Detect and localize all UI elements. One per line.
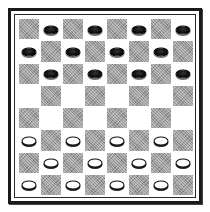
light-square-r2c7[interactable] xyxy=(172,63,194,85)
light-square-r1c4[interactable] xyxy=(106,40,128,62)
dark-square-r5c7[interactable] xyxy=(172,129,194,151)
light-square-r2c3[interactable] xyxy=(84,63,106,85)
white-checker-piece[interactable] xyxy=(44,159,59,168)
black-checker-piece[interactable] xyxy=(176,25,191,34)
dark-square-r2c2[interactable] xyxy=(62,63,84,85)
dark-square-r5c1[interactable] xyxy=(40,129,62,151)
light-square-r0c7[interactable] xyxy=(172,18,194,40)
light-square-r2c5[interactable] xyxy=(128,63,150,85)
dark-square-r1c1[interactable] xyxy=(40,40,62,62)
light-square-r6c1[interactable] xyxy=(40,152,62,174)
dark-square-r2c6[interactable] xyxy=(150,63,172,85)
white-checker-piece[interactable] xyxy=(66,136,81,145)
dark-square-r7c5[interactable] xyxy=(128,174,150,196)
light-square-r3c4[interactable] xyxy=(106,85,128,107)
dark-square-r6c2[interactable] xyxy=(62,152,84,174)
dark-square-r3c7[interactable] xyxy=(172,85,194,107)
board-frame-inner xyxy=(14,14,196,198)
dark-square-r7c3[interactable] xyxy=(84,174,106,196)
black-checker-piece[interactable] xyxy=(132,70,147,79)
board-frame-outer xyxy=(8,8,202,204)
light-square-r7c6[interactable] xyxy=(150,174,172,196)
light-square-r5c4[interactable] xyxy=(106,129,128,151)
dark-square-r4c0[interactable] xyxy=(18,107,40,129)
light-square-r0c5[interactable] xyxy=(128,18,150,40)
dark-square-r1c3[interactable] xyxy=(84,40,106,62)
white-checker-piece[interactable] xyxy=(154,136,169,145)
white-checker-piece[interactable] xyxy=(110,181,125,190)
light-square-r0c1[interactable] xyxy=(40,18,62,40)
light-square-r3c0[interactable] xyxy=(18,85,40,107)
checkers-board[interactable] xyxy=(18,18,194,196)
dark-square-r0c0[interactable] xyxy=(18,18,40,40)
light-square-r1c2[interactable] xyxy=(62,40,84,62)
white-checker-piece[interactable] xyxy=(132,159,147,168)
light-square-r6c3[interactable] xyxy=(84,152,106,174)
white-checker-piece[interactable] xyxy=(22,181,37,190)
black-checker-piece[interactable] xyxy=(22,47,37,56)
white-checker-piece[interactable] xyxy=(154,181,169,190)
dark-square-r5c3[interactable] xyxy=(84,129,106,151)
white-checker-piece[interactable] xyxy=(22,136,37,145)
white-checker-piece[interactable] xyxy=(66,181,81,190)
light-square-r7c2[interactable] xyxy=(62,174,84,196)
dark-square-r1c5[interactable] xyxy=(128,40,150,62)
dark-square-r5c5[interactable] xyxy=(128,129,150,151)
dark-square-r3c1[interactable] xyxy=(40,85,62,107)
dark-square-r4c2[interactable] xyxy=(62,107,84,129)
white-checker-piece[interactable] xyxy=(88,159,103,168)
black-checker-piece[interactable] xyxy=(110,47,125,56)
light-square-r3c2[interactable] xyxy=(62,85,84,107)
light-square-r5c0[interactable] xyxy=(18,129,40,151)
light-square-r4c5[interactable] xyxy=(128,107,150,129)
dark-square-r3c5[interactable] xyxy=(128,85,150,107)
light-square-r4c3[interactable] xyxy=(84,107,106,129)
dark-square-r3c3[interactable] xyxy=(84,85,106,107)
black-checker-piece[interactable] xyxy=(176,70,191,79)
black-checker-piece[interactable] xyxy=(88,70,103,79)
light-square-r4c7[interactable] xyxy=(172,107,194,129)
dark-square-r4c6[interactable] xyxy=(150,107,172,129)
light-square-r6c7[interactable] xyxy=(172,152,194,174)
white-checker-piece[interactable] xyxy=(110,136,125,145)
light-square-r1c6[interactable] xyxy=(150,40,172,62)
black-checker-piece[interactable] xyxy=(66,47,81,56)
dark-square-r6c0[interactable] xyxy=(18,152,40,174)
black-checker-piece[interactable] xyxy=(44,25,59,34)
dark-square-r0c2[interactable] xyxy=(62,18,84,40)
light-square-r7c4[interactable] xyxy=(106,174,128,196)
dark-square-r4c4[interactable] xyxy=(106,107,128,129)
black-checker-piece[interactable] xyxy=(88,25,103,34)
dark-square-r2c4[interactable] xyxy=(106,63,128,85)
dark-square-r7c7[interactable] xyxy=(172,174,194,196)
white-checker-piece[interactable] xyxy=(176,159,191,168)
light-square-r4c1[interactable] xyxy=(40,107,62,129)
dark-square-r7c1[interactable] xyxy=(40,174,62,196)
light-square-r0c3[interactable] xyxy=(84,18,106,40)
dark-square-r1c7[interactable] xyxy=(172,40,194,62)
light-square-r1c0[interactable] xyxy=(18,40,40,62)
black-checker-piece[interactable] xyxy=(154,47,169,56)
black-checker-piece[interactable] xyxy=(132,25,147,34)
dark-square-r6c6[interactable] xyxy=(150,152,172,174)
light-square-r6c5[interactable] xyxy=(128,152,150,174)
light-square-r7c0[interactable] xyxy=(18,174,40,196)
black-checker-piece[interactable] xyxy=(44,70,59,79)
light-square-r5c2[interactable] xyxy=(62,129,84,151)
light-square-r3c6[interactable] xyxy=(150,85,172,107)
light-square-r5c6[interactable] xyxy=(150,129,172,151)
light-square-r2c1[interactable] xyxy=(40,63,62,85)
dark-square-r0c4[interactable] xyxy=(106,18,128,40)
dark-square-r0c6[interactable] xyxy=(150,18,172,40)
dark-square-r2c0[interactable] xyxy=(18,63,40,85)
dark-square-r6c4[interactable] xyxy=(106,152,128,174)
